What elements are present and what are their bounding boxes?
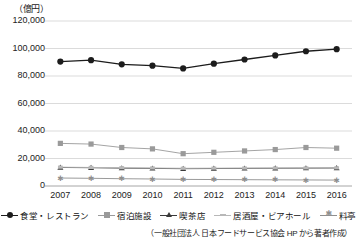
line-chart: （億円） 020,00040,00060,00080,000100,000120… xyxy=(0,0,357,241)
source-note: （一般社団法人 日本フードサービス協会 HP から著者作成） xyxy=(146,227,352,238)
data-point xyxy=(89,166,94,169)
x-tick-label: 2013 xyxy=(230,191,260,200)
data-point xyxy=(149,63,155,69)
data-point: ✱ xyxy=(180,175,186,184)
data-point xyxy=(58,141,63,146)
data-point xyxy=(181,167,186,170)
legend-label: 喫茶店 xyxy=(179,209,205,221)
legend-label: 食堂・レストラン xyxy=(20,209,89,221)
data-point xyxy=(119,145,124,150)
data-point xyxy=(57,58,63,64)
legend-marker-icon xyxy=(160,211,177,220)
legend-marker-icon xyxy=(1,211,18,220)
x-tick-label: 2008 xyxy=(76,191,106,200)
data-point xyxy=(241,56,247,62)
legend-item-0[interactable]: 食堂・レストラン xyxy=(1,209,89,221)
legend-item-1[interactable]: 宿泊施設 xyxy=(98,209,151,221)
gridlines xyxy=(45,21,352,186)
legend-item-3[interactable]: 居酒屋・ビアホール xyxy=(214,209,310,221)
x-tick-label: 2010 xyxy=(137,191,167,200)
x-tick-label: 2015 xyxy=(291,191,321,200)
data-point xyxy=(273,147,278,152)
data-point: ✱ xyxy=(211,175,217,184)
data-point xyxy=(242,166,247,169)
chart-legend: 食堂・レストラン宿泊施設喫茶店居酒屋・ビアホール✱料亭 xyxy=(0,206,357,224)
data-point xyxy=(211,61,217,67)
data-point: ✱ xyxy=(334,176,340,185)
x-tick-label: 2009 xyxy=(107,191,137,200)
data-point xyxy=(119,166,124,169)
series-line xyxy=(60,49,336,68)
data-point xyxy=(334,46,340,52)
data-point: ✱ xyxy=(57,174,63,183)
x-tick-label: 2011 xyxy=(168,191,198,200)
x-tick-label: 2014 xyxy=(260,191,290,200)
legend-marker-icon xyxy=(98,211,115,220)
data-point: ✱ xyxy=(119,174,125,183)
legend-label: 居酒屋・ビアホール xyxy=(233,209,310,221)
data-point xyxy=(334,146,339,151)
data-point xyxy=(272,52,278,58)
data-point xyxy=(150,146,155,151)
data-point xyxy=(211,167,216,170)
series-1 xyxy=(58,141,340,157)
data-point xyxy=(88,141,93,146)
legend-item-2[interactable]: 喫茶店 xyxy=(160,209,205,221)
series-4: ✱✱✱✱✱✱✱✱✱✱ xyxy=(57,174,340,185)
data-point: ✱ xyxy=(272,175,278,184)
data-point xyxy=(273,166,278,169)
legend-item-4[interactable]: ✱料亭 xyxy=(320,209,356,221)
data-point xyxy=(181,151,186,156)
legend-marker-icon: ✱ xyxy=(320,211,337,220)
series-line xyxy=(60,143,336,153)
legend-marker-icon xyxy=(214,211,231,220)
data-point xyxy=(119,61,125,67)
x-tick-label: 2012 xyxy=(199,191,229,200)
data-point xyxy=(334,166,339,169)
legend-label: 料亭 xyxy=(339,209,356,221)
data-point xyxy=(88,57,94,63)
series-3 xyxy=(58,166,339,170)
x-tick-label: 2016 xyxy=(322,191,352,200)
data-point xyxy=(242,148,247,153)
data-point xyxy=(303,145,308,150)
data-point: ✱ xyxy=(303,176,309,185)
plot-area: ✱✱✱✱✱✱✱✱✱✱ xyxy=(0,0,357,241)
data-point xyxy=(211,150,216,155)
legend-label: 宿泊施設 xyxy=(117,209,151,221)
data-point: ✱ xyxy=(88,174,94,183)
data-point xyxy=(180,65,186,71)
data-point xyxy=(303,48,309,54)
data-point: ✱ xyxy=(149,175,155,184)
data-point xyxy=(150,166,155,169)
data-point xyxy=(304,166,309,169)
series-line xyxy=(60,178,336,180)
data-point: ✱ xyxy=(241,175,247,184)
series-layer: ✱✱✱✱✱✱✱✱✱✱ xyxy=(57,46,340,185)
series-0 xyxy=(57,46,340,71)
x-tick-label: 2007 xyxy=(45,191,75,200)
data-point xyxy=(58,166,63,169)
